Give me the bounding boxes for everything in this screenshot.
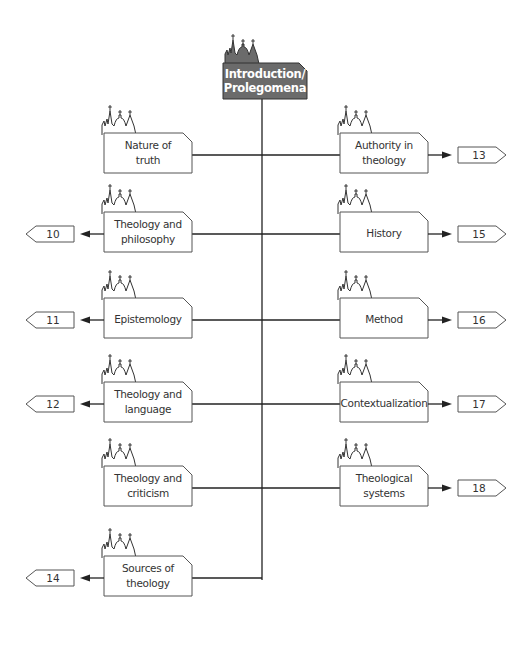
node-label-line: Authority in	[355, 139, 413, 151]
node-contextualization[interactable]: Contextualization17	[338, 354, 506, 422]
page-reference-number: 12	[46, 398, 59, 410]
church-skyline-icon	[338, 105, 372, 135]
page-reference-number: 11	[46, 314, 59, 326]
page-reference-tag[interactable]: 16	[458, 312, 506, 328]
page-reference-tag[interactable]: 13	[458, 147, 506, 163]
node-label-line: systems	[363, 487, 404, 499]
page-reference-tag[interactable]: 15	[458, 226, 506, 242]
page-reference-number: 16	[472, 314, 486, 326]
page-reference-number: 10	[46, 228, 59, 240]
arrowhead-icon	[442, 485, 452, 492]
node-nature-of-truth[interactable]: Nature oftruth	[102, 105, 192, 173]
church-skyline-icon	[102, 105, 136, 135]
church-skyline-icon	[102, 270, 136, 300]
node-epistemology[interactable]: Epistemology11	[26, 270, 192, 338]
node-label-line: History	[366, 227, 401, 239]
node-label-line: Sources of	[122, 562, 175, 574]
page-reference-tag[interactable]: 14	[26, 570, 74, 586]
node-label-line: Theology and	[113, 472, 182, 484]
church-skyline-icon	[338, 184, 372, 214]
page-reference-tag[interactable]: 11	[26, 312, 74, 328]
node-label-line: truth	[136, 154, 160, 166]
node-label-line: Method	[365, 313, 403, 325]
church-skyline-icon	[338, 270, 372, 300]
node-label-line: Theology and	[113, 218, 182, 230]
arrowhead-icon	[442, 401, 452, 408]
arrowhead-icon	[80, 401, 90, 408]
church-skyline-icon	[338, 354, 372, 384]
node-theological-systems[interactable]: Theologicalsystems18	[338, 438, 506, 506]
arrowhead-icon	[442, 317, 452, 324]
page-reference-number: 18	[472, 482, 485, 494]
node-method[interactable]: Method16	[338, 270, 506, 338]
arrowhead-icon	[80, 317, 90, 324]
root-label-line: Introduction/	[225, 67, 307, 81]
page-reference-number: 15	[472, 228, 485, 240]
church-skyline-icon	[225, 34, 259, 64]
page-reference-tag[interactable]: 18	[458, 480, 506, 496]
church-skyline-icon	[102, 354, 136, 384]
church-skyline-icon	[102, 184, 136, 214]
page-reference-number: 13	[472, 149, 485, 161]
nodes-layer: Nature oftruthAuthority intheology13Theo…	[26, 105, 506, 596]
node-sources-of-theology[interactable]: Sources oftheology14	[26, 528, 192, 596]
root-label-line: Prolegomena	[224, 81, 306, 95]
node-label-line: theology	[362, 154, 406, 166]
page-reference-tag[interactable]: 12	[26, 396, 74, 412]
node-label-line: criticism	[127, 487, 169, 499]
connectors	[192, 99, 340, 580]
arrowhead-icon	[442, 152, 452, 159]
page-reference-number: 17	[472, 398, 485, 410]
church-skyline-icon	[102, 528, 136, 558]
arrowhead-icon	[80, 231, 90, 238]
page-reference-tag[interactable]: 10	[26, 226, 74, 242]
node-label-line: Theological	[355, 472, 413, 484]
node-history[interactable]: History15	[338, 184, 506, 252]
node-label-line: Nature of	[125, 139, 172, 151]
node-label-line: Theology and	[113, 388, 182, 400]
arrowhead-icon	[80, 575, 90, 582]
node-label-line: Contextualization	[340, 397, 427, 409]
node-theology-and-philosophy[interactable]: Theology andphilosophy10	[26, 184, 192, 252]
church-skyline-icon	[102, 438, 136, 468]
node-label-line: philosophy	[121, 233, 175, 245]
node-theology-and-language[interactable]: Theology andlanguage12	[26, 354, 192, 422]
node-authority-in-theology[interactable]: Authority intheology13	[338, 105, 506, 173]
page-reference-tag[interactable]: 17	[458, 396, 506, 412]
church-skyline-icon	[338, 438, 372, 468]
arrowhead-icon	[442, 231, 452, 238]
node-label-line: Epistemology	[114, 313, 182, 325]
node-label-line: language	[125, 403, 172, 415]
node-theology-and-criticism[interactable]: Theology andcriticism	[102, 438, 192, 506]
node-label-line: theology	[126, 577, 170, 589]
theology-concept-diagram: Nature oftruthAuthority intheology13Theo…	[0, 0, 524, 653]
page-reference-number: 14	[46, 572, 60, 584]
root-node[interactable]: Introduction/Prolegomena	[223, 34, 307, 99]
